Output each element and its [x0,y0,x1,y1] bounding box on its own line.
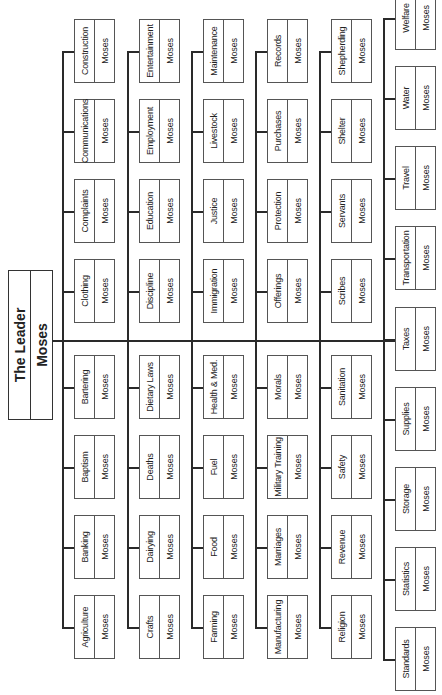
connector-line [127,211,139,213]
leader-name: Moses [34,323,50,367]
department-name: Scribes [337,277,347,306]
department-head: Moses [293,374,303,400]
connector-line [319,547,331,549]
department-box: DeathsMoses [139,435,180,499]
department-name: Supplies [401,403,411,436]
department-cell: Safety [332,436,351,498]
department-head: Moses [421,85,431,111]
department-box: EntertainmentMoses [139,19,180,83]
department-cell: Records [268,20,287,82]
head-cell: Moses [159,100,179,162]
department-head: Moses [293,278,303,304]
department-head: Moses [357,198,367,224]
department-name: Crafts [145,616,155,639]
head-cell: Moses [94,20,114,82]
department-cell: Scribes [332,260,351,322]
department-name: Health & Med. [209,360,219,414]
department-head: Moses [229,534,239,560]
head-cell: Moses [351,260,371,322]
leader-box: The Leader Moses [8,270,53,420]
department-head: Moses [293,38,303,64]
department-name: Taxes [401,328,411,351]
leader-title-cell: The Leader [9,271,30,419]
branch-line [62,51,64,628]
head-cell: Moses [159,260,179,322]
department-cell: Food [204,516,223,578]
head-cell: Moses [287,260,307,322]
department-head: Moses [229,278,239,304]
department-name: Protection [273,192,283,231]
department-name: Religion [337,612,347,643]
head-cell: Moses [94,260,114,322]
department-head: Moses [165,278,175,304]
department-name: Dairying [145,531,155,562]
connector-line [62,51,74,53]
connector-line [127,51,139,53]
connector-line [127,387,139,389]
head-cell: Moses [159,436,179,498]
head-cell: Moses [94,356,114,418]
department-name: Maintenance [209,26,219,75]
leader-name-cell: Moses [30,271,52,419]
connector-line [319,211,331,213]
department-name: Travel [401,166,411,189]
department-box: Health & Med.Moses [203,355,244,419]
connector-line [127,467,139,469]
connector-line [62,131,74,133]
department-cell: Education [140,180,159,242]
department-head: Moses [421,486,431,512]
department-box: CommunicationsMoses [74,99,115,163]
department-name: Clothing [80,275,90,306]
department-head: Moses [229,198,239,224]
connector-line [255,467,267,469]
head-cell: Moses [415,147,435,209]
head-cell: Moses [415,227,435,289]
department-box: ClothingMoses [74,259,115,323]
department-box: CraftsMoses [139,595,180,659]
department-cell: Clothing [75,260,94,322]
department-name: Employment [145,107,155,155]
department-head: Moses [357,534,367,560]
connector-line [191,547,203,549]
head-cell: Moses [351,356,371,418]
department-head: Moses [229,38,239,64]
department-cell: Shepherding [332,20,351,82]
department-box: BarteringMoses [74,355,115,419]
department-name: Construction [80,27,90,75]
department-cell: Supplies [396,388,415,450]
connector-line [62,211,74,213]
head-cell: Moses [223,436,243,498]
head-cell: Moses [223,20,243,82]
department-head: Moses [100,454,110,480]
department-box: TransportationMoses [395,226,436,290]
department-name: Sanitation [337,368,347,406]
department-name: Marriages [273,528,283,566]
department-cell: Fuel [204,436,223,498]
head-cell: Moses [159,180,179,242]
head-cell: Moses [223,516,243,578]
department-name: Manufacturing [273,600,283,654]
department-head: Moses [100,278,110,304]
department-box: PurchasesMoses [267,99,308,163]
department-head: Moses [100,118,110,144]
department-cell: Agriculture [75,596,94,658]
connector-line [62,627,74,629]
department-box: ServantsMoses [331,179,372,243]
department-cell: Marriages [268,516,287,578]
connector-line [127,131,139,133]
head-cell: Moses [287,20,307,82]
department-name: Food [209,537,219,557]
department-box: EmploymentMoses [139,99,180,163]
department-head: Moses [165,614,175,640]
department-cell: Communications [75,100,94,162]
department-box: SuppliesMoses [395,387,436,451]
department-cell: Taxes [396,308,415,370]
department-box: JusticeMoses [203,179,244,243]
department-name: Shelter [337,117,347,144]
head-cell: Moses [415,308,435,370]
department-head: Moses [421,566,431,592]
connector-line [383,499,395,501]
leader-title: The Leader [12,308,28,383]
department-name: Purchases [273,111,283,152]
head-cell: Moses [351,436,371,498]
